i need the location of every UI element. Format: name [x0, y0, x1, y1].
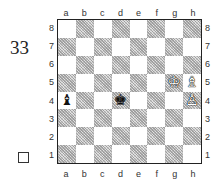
- square-e2: [130, 127, 148, 145]
- square-e3: [130, 109, 148, 127]
- square-a6: [58, 56, 76, 74]
- square-h6: [183, 56, 201, 74]
- black-king-icon: ♚: [114, 93, 127, 108]
- square-f6: [147, 56, 165, 74]
- square-c5: [94, 74, 112, 92]
- square-f1: [147, 145, 165, 163]
- rank-label: 5: [49, 73, 54, 91]
- rank-label: 8: [49, 19, 54, 37]
- file-label: c: [93, 8, 111, 18]
- square-b1: [76, 145, 94, 163]
- square-g6: [165, 56, 183, 74]
- square-c6: [94, 56, 112, 74]
- file-label: g: [166, 169, 184, 179]
- square-d1: [112, 145, 130, 163]
- file-label: h: [184, 8, 202, 18]
- rank-label: 4: [205, 92, 210, 110]
- file-label: a: [57, 8, 75, 18]
- square-h8: [183, 20, 201, 38]
- square-g8: [165, 20, 183, 38]
- rank-label: 3: [49, 110, 54, 128]
- square-c3: [94, 109, 112, 127]
- square-h4: ♙: [183, 92, 201, 110]
- square-a4: ♝: [58, 92, 76, 110]
- rank-label: 8: [205, 19, 210, 37]
- rank-label: 2: [49, 128, 54, 146]
- rank-label: 2: [205, 128, 210, 146]
- chess-board: ♔♗♝♚♙: [57, 19, 202, 164]
- square-c8: [94, 20, 112, 38]
- file-label: b: [75, 8, 93, 18]
- square-c7: [94, 38, 112, 56]
- square-d2: [112, 127, 130, 145]
- square-a7: [58, 38, 76, 56]
- rank-labels-left: 8 7 6 5 4 3 2 1: [49, 19, 54, 164]
- white-bishop-icon: ♗: [185, 75, 198, 90]
- square-h2: [183, 127, 201, 145]
- rank-label: 7: [205, 37, 210, 55]
- square-d5: [112, 74, 130, 92]
- square-h7: [183, 38, 201, 56]
- square-g2: [165, 127, 183, 145]
- square-g7: [165, 38, 183, 56]
- square-b4: [76, 92, 94, 110]
- rank-label: 3: [205, 110, 210, 128]
- square-g3: [165, 109, 183, 127]
- square-b2: [76, 127, 94, 145]
- rank-label: 5: [205, 73, 210, 91]
- file-label: e: [130, 8, 148, 18]
- square-f4: [147, 92, 165, 110]
- turn-indicator-white-to-move: [18, 152, 29, 163]
- square-g5: ♔: [165, 74, 183, 92]
- rank-label: 1: [205, 146, 210, 164]
- file-label: f: [148, 8, 166, 18]
- file-label: f: [148, 169, 166, 179]
- square-e1: [130, 145, 148, 163]
- square-b8: [76, 20, 94, 38]
- white-king-icon: ♔: [167, 75, 180, 90]
- square-d8: [112, 20, 130, 38]
- square-h5: ♗: [183, 74, 201, 92]
- diagram-number: 33: [10, 37, 29, 59]
- square-e5: [130, 74, 148, 92]
- square-e8: [130, 20, 148, 38]
- square-d6: [112, 56, 130, 74]
- square-a3: [58, 109, 76, 127]
- square-c2: [94, 127, 112, 145]
- file-label: e: [130, 169, 148, 179]
- square-f3: [147, 109, 165, 127]
- square-b6: [76, 56, 94, 74]
- file-label: a: [57, 169, 75, 179]
- file-label: b: [75, 169, 93, 179]
- square-e4: [130, 92, 148, 110]
- file-label: d: [111, 8, 129, 18]
- square-h3: [183, 109, 201, 127]
- file-label: d: [111, 169, 129, 179]
- square-g1: [165, 145, 183, 163]
- rank-label: 1: [49, 146, 54, 164]
- square-b5: [76, 74, 94, 92]
- square-a8: [58, 20, 76, 38]
- rank-label: 4: [49, 92, 54, 110]
- square-g4: [165, 92, 183, 110]
- square-e7: [130, 38, 148, 56]
- square-c1: [94, 145, 112, 163]
- square-c4: [94, 92, 112, 110]
- square-b3: [76, 109, 94, 127]
- square-e6: [130, 56, 148, 74]
- white-pawn-icon: ♙: [185, 93, 198, 108]
- square-f5: [147, 74, 165, 92]
- square-a1: [58, 145, 76, 163]
- square-d4: ♚: [112, 92, 130, 110]
- file-labels-top: a b c d e f g h: [57, 8, 202, 18]
- file-labels-bottom: a b c d e f g h: [57, 169, 202, 179]
- square-f8: [147, 20, 165, 38]
- square-a2: [58, 127, 76, 145]
- file-label: g: [166, 8, 184, 18]
- rank-label: 7: [49, 37, 54, 55]
- file-label: h: [184, 169, 202, 179]
- square-a5: [58, 74, 76, 92]
- black-bishop-icon: ♝: [60, 93, 73, 108]
- rank-label: 6: [205, 55, 210, 73]
- square-d3: [112, 109, 130, 127]
